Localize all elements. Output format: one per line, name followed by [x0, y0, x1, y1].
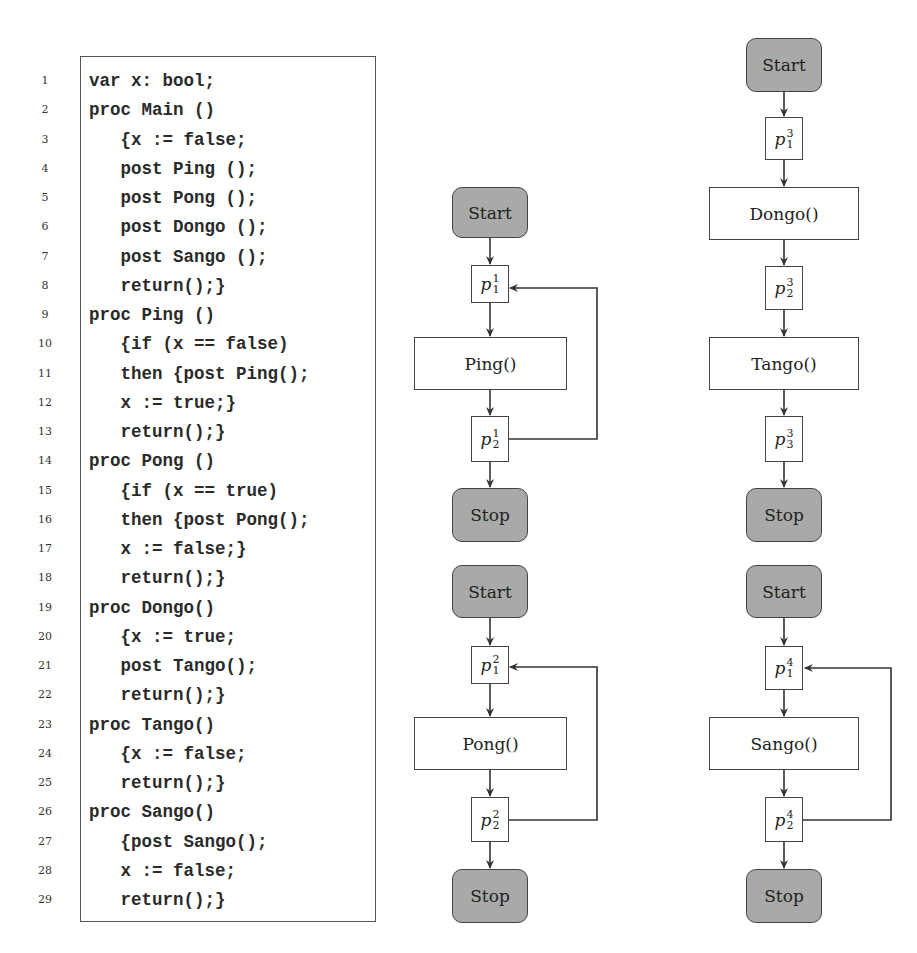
line-number: 26: [10, 805, 80, 818]
code-line: proc Dongo(): [89, 598, 215, 618]
subscript: 1: [786, 668, 793, 679]
line-number: 9: [10, 308, 80, 321]
line-number: 23: [10, 718, 80, 731]
line-number: 6: [10, 220, 80, 233]
node-label: Start: [762, 55, 806, 75]
code-line: then {post Ping();: [89, 364, 310, 384]
line-number: 16: [10, 513, 80, 526]
node-label: p: [775, 278, 786, 298]
subscript: 2: [786, 820, 793, 831]
subscript: 1: [492, 284, 499, 295]
ping-p1-node: p11: [471, 265, 509, 303]
pong-p2-node: p22: [471, 797, 509, 842]
line-number: 21: [10, 659, 80, 672]
line-number: 15: [10, 484, 80, 497]
line-number: 13: [10, 425, 80, 438]
subscript: 1: [492, 665, 499, 676]
subscript: 2: [492, 439, 499, 450]
subscript: 2: [786, 288, 793, 299]
line-number: 27: [10, 835, 80, 848]
superscript: 4: [786, 809, 793, 820]
node-label: p: [775, 810, 786, 830]
code-line: post Sango ();: [89, 247, 268, 267]
subscript: 2: [492, 820, 499, 831]
node-label: Stop: [470, 886, 510, 906]
subscript: 1: [786, 139, 793, 150]
code-line: return();}: [89, 890, 226, 910]
node-label: p: [481, 810, 492, 830]
line-number: 25: [10, 776, 80, 789]
code-line: return();}: [89, 422, 226, 442]
sango-stop-node: Stop: [746, 869, 822, 923]
superscript: 3: [786, 128, 793, 139]
dongo-p2-node: p32: [765, 266, 803, 310]
line-number: 28: [10, 864, 80, 877]
ping-p2-node: p12: [471, 416, 509, 462]
line-number: 29: [10, 893, 80, 906]
code-line: post Pong ();: [89, 188, 257, 208]
code-line: post Tango();: [89, 656, 257, 676]
code-line: {x := true;: [89, 627, 236, 647]
line-number: 7: [10, 250, 80, 263]
node-label: Sango(): [750, 734, 817, 754]
line-number: 1: [10, 74, 80, 87]
line-number: 11: [10, 367, 80, 380]
subscript: 3: [786, 439, 793, 450]
node-label: p: [481, 655, 492, 675]
code-line: {if (x == false): [89, 334, 289, 354]
node-label: Stop: [764, 505, 804, 525]
code-line: post Dongo ();: [89, 217, 268, 237]
code-line: {if (x == true): [89, 481, 278, 501]
line-number: 3: [10, 133, 80, 146]
line-number: 17: [10, 542, 80, 555]
pong-p1-node: p21: [471, 646, 509, 684]
code-line: return();}: [89, 276, 226, 296]
pong-stop-node: Stop: [452, 869, 528, 923]
dongo-stop-node: Stop: [746, 488, 822, 542]
code-line: {x := false;: [89, 744, 247, 764]
code-line: x := true;}: [89, 393, 236, 413]
line-number: 2: [10, 103, 80, 116]
code-line: var x: bool;: [89, 71, 215, 91]
sango-start-node: Start: [746, 565, 822, 618]
dongo-p3-node: p33: [765, 416, 803, 462]
ping-start-node: Start: [452, 187, 528, 238]
code-line: x := false;}: [89, 539, 247, 559]
code-line: return();}: [89, 773, 226, 793]
tango-proc-node: Tango(): [709, 337, 859, 390]
node-label: Stop: [764, 886, 804, 906]
sango-p2-node: p42: [765, 797, 803, 842]
node-label: Tango(): [751, 354, 817, 374]
code-line: x := false;: [89, 861, 236, 881]
line-number: 24: [10, 747, 80, 760]
superscript: 2: [492, 809, 499, 820]
node-label: Pong(): [462, 734, 518, 754]
ping-stop-node: Stop: [452, 488, 528, 542]
code-line: proc Pong (): [89, 451, 215, 471]
line-number: 19: [10, 601, 80, 614]
pong-proc-node: Pong(): [414, 717, 567, 770]
line-number: 10: [10, 337, 80, 350]
line-number: 12: [10, 396, 80, 409]
sango-proc-node: Sango(): [709, 717, 859, 770]
dongo-start-node: Start: [746, 38, 822, 92]
code-line: proc Main (): [89, 100, 215, 120]
node-label: p: [481, 274, 492, 294]
pong-start-node: Start: [452, 565, 528, 618]
node-label: p: [481, 429, 492, 449]
dongo-proc-node: Dongo(): [709, 187, 859, 240]
node-label: Start: [468, 582, 512, 602]
node-label: p: [775, 429, 786, 449]
line-number: 8: [10, 279, 80, 292]
line-number: 4: [10, 162, 80, 175]
line-number: 14: [10, 454, 80, 467]
node-label: Start: [762, 582, 806, 602]
code-listing: var x: bool;proc Main () {x := false; po…: [80, 56, 376, 922]
line-number: 18: [10, 571, 80, 584]
ping-proc-node: Ping(): [414, 337, 567, 390]
code-line: proc Ping (): [89, 305, 215, 325]
node-label: p: [775, 658, 786, 678]
node-label: Start: [468, 203, 512, 223]
code-line: {post Sango();: [89, 832, 268, 852]
code-line: return();}: [89, 568, 226, 588]
